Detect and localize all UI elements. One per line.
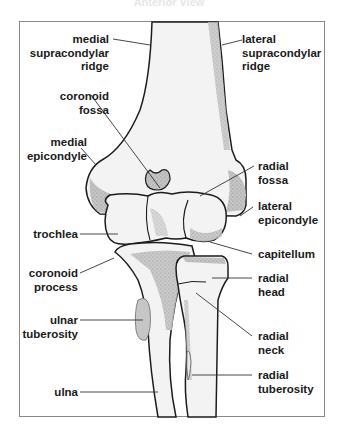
label-coronoid-fossa: coronoid fossa bbox=[60, 90, 109, 117]
label-radial-head: radial head bbox=[258, 272, 289, 299]
label-radial-fossa: radial fossa bbox=[258, 160, 289, 187]
label-ulna: ulna bbox=[54, 386, 78, 400]
label-capitellum: capitellum bbox=[258, 248, 315, 262]
label-medial-epicondyle: medial epicondyle bbox=[27, 136, 87, 163]
label-lateral-epicondyle: lateral epicondyle bbox=[258, 200, 318, 227]
label-medial-supracondylar-ridge: medial supracondylar ridge bbox=[30, 33, 109, 74]
label-radial-tuberosity: radial tuberosity bbox=[258, 369, 314, 396]
label-lateral-supracondylar-ridge: lateral supracondylar ridge bbox=[242, 33, 321, 74]
radius-bone bbox=[176, 256, 228, 417]
label-ulnar-tuberosity: ulnar tuberosity bbox=[22, 314, 78, 341]
label-trochlea: trochlea bbox=[33, 228, 78, 242]
ulnar-tuberosity-shape bbox=[135, 298, 150, 340]
label-radial-neck: radial neck bbox=[258, 330, 289, 357]
label-coronoid-process: coronoid process bbox=[29, 267, 78, 294]
humerus bbox=[86, 22, 246, 216]
trochlea-capitellum bbox=[105, 192, 226, 244]
